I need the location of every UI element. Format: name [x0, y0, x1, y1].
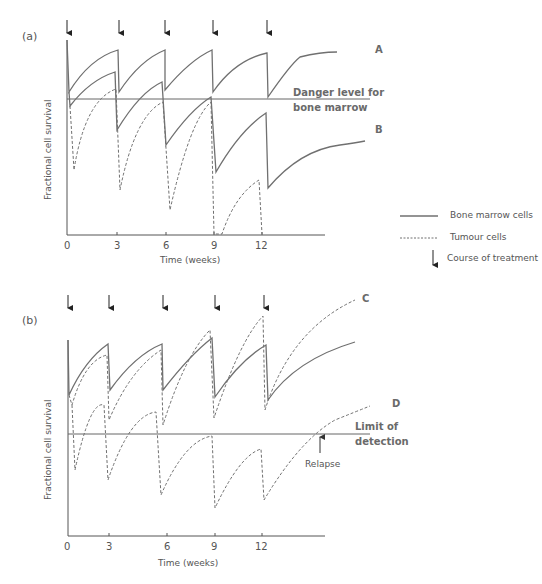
axes-b	[68, 340, 325, 536]
curve-label-b: B	[375, 124, 383, 135]
limit-detection-label-2: detection	[355, 436, 409, 447]
panel-a-label: (a)	[22, 30, 37, 43]
x-tick-a-6: 6	[163, 240, 169, 251]
x-axis-label-b: Time (weeks)	[158, 558, 218, 568]
curve-d	[72, 405, 370, 508]
danger-level-label-2: bone marrow	[293, 102, 368, 113]
x-tick-a-9: 9	[211, 240, 217, 251]
x-tick-b-9: 9	[211, 541, 217, 552]
y-axis-label-a: Fractional cell survival	[43, 100, 53, 200]
panel-a	[67, 20, 370, 235]
limit-detection-label-1: Limit of	[355, 421, 398, 432]
x-tick-b-0: 0	[64, 541, 70, 552]
legend-graphics	[400, 216, 438, 265]
y-axis-label-b: Fractional cell survival	[43, 400, 53, 500]
curve-c	[69, 300, 355, 425]
x-tick-a-3: 3	[114, 240, 120, 251]
legend-treatment: Course of treatment	[447, 253, 538, 263]
x-tick-b-12: 12	[255, 541, 268, 552]
curve-label-c: C	[362, 293, 369, 304]
danger-level-label-1: Danger level for	[293, 87, 384, 98]
x-axis-label-a: Time (weeks)	[160, 255, 220, 265]
treatment-arrows-b	[68, 295, 264, 308]
relapse-label: Relapse	[305, 459, 340, 469]
axes-a	[67, 40, 325, 235]
panel-b	[68, 295, 370, 536]
panel-b-label: (b)	[22, 314, 38, 327]
legend-tumour: Tumour cells	[450, 232, 507, 242]
x-tick-b-3: 3	[106, 541, 112, 552]
curve-label-a: A	[375, 44, 383, 55]
chart-svg	[0, 0, 542, 584]
treatment-arrows-a	[67, 20, 267, 33]
curve-bone-marrow-b	[68, 338, 355, 400]
x-tick-b-6: 6	[164, 541, 170, 552]
x-tick-a-12: 12	[255, 240, 268, 251]
legend-bone-marrow: Bone marrow cells	[450, 210, 533, 220]
curve-tumour-a	[70, 89, 262, 234]
curve-label-d: D	[392, 398, 400, 409]
x-tick-a-0: 0	[64, 240, 70, 251]
